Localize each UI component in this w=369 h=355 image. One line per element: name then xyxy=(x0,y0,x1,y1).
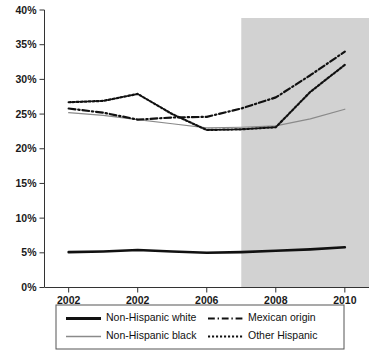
chart-legend: Non-Hispanic whiteMexican originNon-Hisp… xyxy=(56,305,344,349)
y-axis-tick-label: 25% xyxy=(15,108,37,120)
y-axis-ticks: 0%5%10%15%20%25%30%35%40% xyxy=(15,4,44,294)
y-axis-tick-label: 10% xyxy=(15,212,37,224)
x-axis-tick-label: 2008 xyxy=(264,294,288,306)
x-axis-tick-label: 2010 xyxy=(333,294,357,306)
y-axis-tick-label: 20% xyxy=(15,142,37,154)
y-axis-tick-label: 5% xyxy=(21,246,37,258)
y-axis-tick-label: 0% xyxy=(21,281,37,293)
legend-label-other-hispanic: Other Hispanic xyxy=(248,329,317,341)
y-axis-tick-label: 35% xyxy=(15,38,37,50)
legend-label-non-hispanic-white: Non-Hispanic white xyxy=(106,311,197,323)
chart-container: 0%5%10%15%20%25%30%35%40% 20022002200620… xyxy=(0,0,369,355)
legend-label-mexican-origin: Mexican origin xyxy=(248,311,316,323)
x-axis-ticks: 20022002200620082010 xyxy=(57,288,357,307)
x-axis-tick-label: 2002 xyxy=(126,294,150,306)
y-axis-tick-label: 30% xyxy=(15,73,37,85)
y-axis-tick-label: 15% xyxy=(15,177,37,189)
x-axis-tick-label: 2002 xyxy=(57,294,81,306)
shaded-region-rect xyxy=(241,18,369,288)
shaded-recession-region xyxy=(241,18,369,288)
y-axis-tick-label: 40% xyxy=(15,4,37,16)
x-axis-tick-label: 2006 xyxy=(195,294,219,306)
legend-label-non-hispanic-black: Non-Hispanic black xyxy=(106,329,197,341)
poverty-rate-line-chart: 0%5%10%15%20%25%30%35%40% 20022002200620… xyxy=(0,0,369,355)
